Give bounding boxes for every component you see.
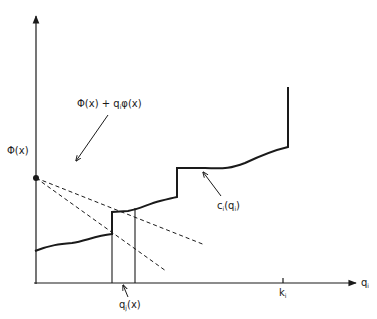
curve-label-c: c [217,200,223,211]
qj-label: qj(x) [119,300,141,310]
phi-label: Φ(x) [7,146,29,156]
cost-curve [35,87,288,251]
k-label-text: k [279,287,285,298]
curve-label-sub2: i [234,205,236,212]
curve-label-q: (q [224,200,234,211]
k-label-sub: i [285,292,287,299]
qj-label-pointer [123,285,128,297]
k-label: ki [279,288,286,298]
qj-label-sub: j [125,304,127,311]
curve-label: ci(qi) [217,201,240,211]
phi-point [33,175,39,181]
x-axis-label: qi [361,278,369,288]
line-label-part-a: Φ(x) + q [77,98,120,109]
line-label: Φ(x) + qiφ(x) [77,99,142,109]
phi-label-text: Φ(x) [7,145,29,156]
qj-label-x: (x) [127,299,141,310]
line-label-part-b: φ(x) [121,98,141,109]
dashed-line-lower [36,178,166,271]
curve-label-close: ) [236,200,240,211]
line-label-pointer [76,115,108,161]
x-axis-label-sub: i [367,282,369,289]
diagram-canvas [0,0,377,319]
curve-label-pointer [203,172,221,196]
curve-label-sub1: i [223,205,225,212]
